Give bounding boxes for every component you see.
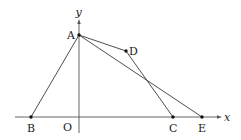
y-axis-label: y xyxy=(75,6,83,19)
point-label-A: A xyxy=(66,29,76,42)
segment-AE xyxy=(79,35,202,117)
point-label-B: B xyxy=(27,122,35,135)
segment-DC xyxy=(126,51,173,117)
point-A xyxy=(77,33,80,36)
segment-AD xyxy=(79,35,126,51)
x-axis-label: x xyxy=(224,111,231,124)
point-label-E: E xyxy=(198,122,206,135)
y-axis-arrow-icon xyxy=(77,19,80,24)
x-axis-arrow-icon xyxy=(217,115,222,118)
geometry-diagram: y x O A B C D E xyxy=(0,0,241,140)
segment-AB xyxy=(31,35,79,117)
point-label-D: D xyxy=(129,45,138,58)
point-label-C: C xyxy=(169,122,177,135)
point-D xyxy=(124,49,127,52)
point-B xyxy=(29,115,32,118)
point-C xyxy=(171,115,174,118)
point-E xyxy=(200,115,203,118)
origin-label: O xyxy=(63,121,72,134)
x-axis xyxy=(15,115,222,118)
